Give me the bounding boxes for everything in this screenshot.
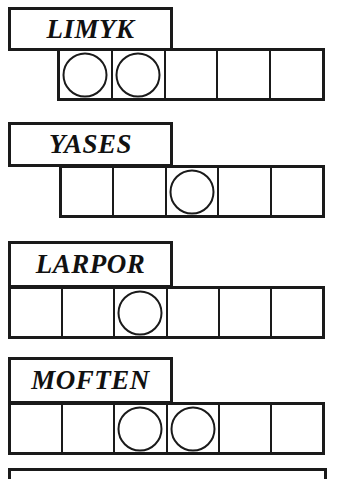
letter-cell[interactable] xyxy=(63,405,115,452)
letter-cell[interactable] xyxy=(272,405,322,452)
letter-cell[interactable] xyxy=(166,51,219,98)
letter-cell[interactable] xyxy=(114,168,166,215)
jumble-answer-sheet: LIMYKYASESLARPORMOFTEN xyxy=(0,0,340,479)
clue-label-box-yases: YASES xyxy=(8,122,173,167)
clue-label-text: LARPOR xyxy=(36,251,146,278)
circled-letter-marker xyxy=(116,52,161,97)
circled-letter-marker xyxy=(63,52,108,97)
letter-cell[interactable] xyxy=(63,289,115,336)
clue-label-text: MOFTEN xyxy=(31,367,150,394)
letter-cell[interactable] xyxy=(115,289,167,336)
letter-cell[interactable] xyxy=(272,289,322,336)
letter-cell[interactable] xyxy=(219,168,271,215)
letter-grid xyxy=(8,402,325,455)
circled-letter-marker xyxy=(118,290,163,335)
next-answer-row-partial xyxy=(8,468,327,479)
clue-label-text: YASES xyxy=(49,131,132,158)
clue-label-box-moften: MOFTEN xyxy=(8,357,173,404)
circled-letter-marker xyxy=(170,169,215,214)
letter-grid xyxy=(59,165,325,218)
clue-label-box-limyk: LIMYK xyxy=(8,7,173,51)
letter-cell[interactable] xyxy=(220,405,272,452)
letter-cell[interactable] xyxy=(113,51,166,98)
letter-cell[interactable] xyxy=(167,168,219,215)
letter-cell[interactable] xyxy=(272,168,322,215)
letter-cell[interactable] xyxy=(220,289,272,336)
letter-cell[interactable] xyxy=(11,405,63,452)
clue-label-text: LIMYK xyxy=(46,16,134,43)
letter-cell[interactable] xyxy=(271,51,322,98)
letter-cell[interactable] xyxy=(168,289,220,336)
clue-label-box-larpor: LARPOR xyxy=(8,241,173,288)
circled-letter-marker xyxy=(118,406,163,451)
letter-cell[interactable] xyxy=(60,51,113,98)
letter-cell[interactable] xyxy=(115,405,167,452)
letter-cell[interactable] xyxy=(62,168,114,215)
letter-grid xyxy=(57,48,325,101)
circled-letter-marker xyxy=(170,406,215,451)
letter-cell[interactable] xyxy=(218,51,271,98)
letter-grid xyxy=(8,286,325,339)
letter-cell[interactable] xyxy=(168,405,220,452)
letter-cell[interactable] xyxy=(11,289,63,336)
